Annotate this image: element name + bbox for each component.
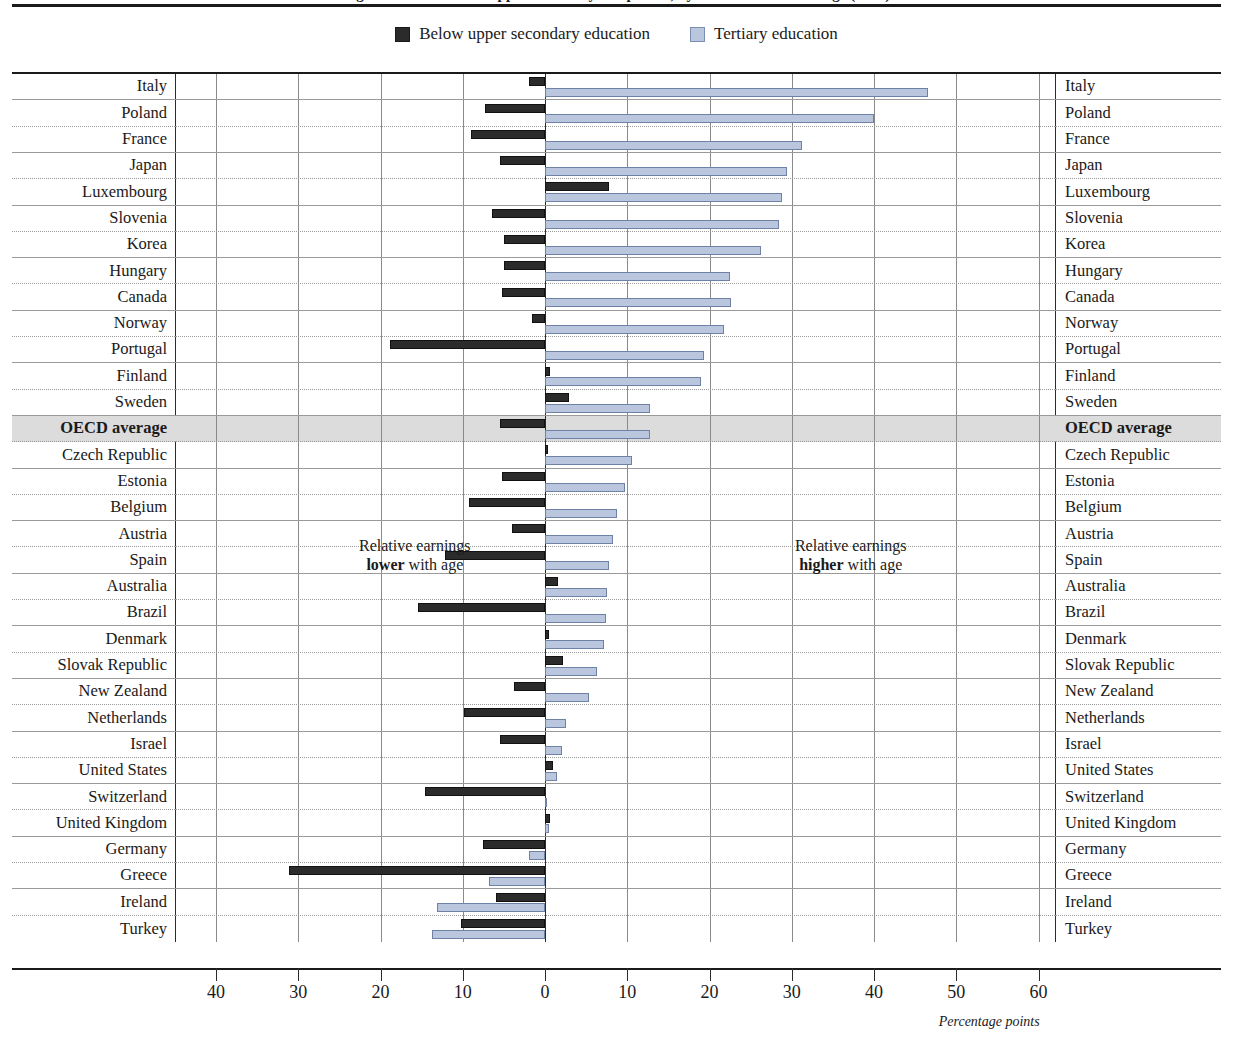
category-label-left-canada: Canada — [118, 284, 167, 309]
category-label-left-oecd-average: OECD average — [60, 416, 167, 441]
bar-below-upper-secondary-slovenia — [492, 209, 545, 218]
category-label-left-ireland: Ireland — [120, 889, 167, 914]
annotation-left-line1: Relative earnings — [359, 537, 471, 554]
annotation-left-rest: with age — [405, 556, 464, 573]
bar-below-upper-secondary-switzerland — [425, 787, 545, 796]
axis-tick-30-7 — [792, 968, 793, 981]
right-category-labels: ItalyPolandFranceJapanLuxembourgSlovenia… — [1055, 74, 1221, 942]
axis-tick-label-4: 0 — [541, 982, 550, 1003]
plot-region — [175, 74, 1055, 942]
annotation-left-bold: lower — [366, 556, 404, 573]
category-label-left-luxembourg: Luxembourg — [82, 179, 167, 204]
bar-tertiary-netherlands — [545, 719, 566, 728]
row-right-japan: Japan — [1055, 153, 1221, 179]
row-left-united-states: United States — [12, 758, 175, 784]
bar-below-upper-secondary-united-states — [545, 761, 553, 770]
category-label-left-france: France — [122, 127, 167, 152]
row-right-spain: Spain — [1055, 547, 1221, 573]
gridline-40 — [874, 74, 875, 942]
bar-below-upper-secondary-greece — [289, 866, 545, 875]
bar-tertiary-austria — [545, 535, 613, 544]
row-left-slovenia: Slovenia — [12, 206, 175, 232]
row-left-belgium: Belgium — [12, 495, 175, 521]
row-right-greece: Greece — [1055, 863, 1221, 889]
category-label-left-united-kingdom: United Kingdom — [56, 810, 167, 835]
gridline-30 — [792, 74, 793, 942]
bar-below-upper-secondary-belgium — [469, 498, 545, 507]
category-label-right-poland: Poland — [1065, 100, 1111, 125]
category-label-left-italy: Italy — [137, 74, 167, 99]
bar-tertiary-hungary — [545, 272, 730, 281]
row-left-norway: Norway — [12, 311, 175, 337]
category-label-right-switzerland: Switzerland — [1065, 784, 1144, 809]
bar-tertiary-sweden — [545, 404, 650, 413]
bar-tertiary-brazil — [545, 614, 606, 623]
row-divider — [175, 916, 1055, 942]
bar-below-upper-secondary-luxembourg — [545, 182, 609, 191]
category-label-left-new-zealand: New Zealand — [79, 679, 167, 704]
row-right-ireland: Ireland — [1055, 889, 1221, 915]
category-label-right-japan: Japan — [1065, 153, 1103, 178]
gridline--30 — [298, 74, 299, 942]
category-label-right-portugal: Portugal — [1065, 337, 1121, 362]
row-left-finland: Finland — [12, 363, 175, 389]
bar-tertiary-czech-republic — [545, 456, 632, 465]
axis-tick-30-1 — [298, 968, 299, 981]
bar-below-upper-secondary-australia — [545, 577, 558, 586]
category-label-right-hungary: Hungary — [1065, 258, 1123, 283]
annotation-higher-with-age: Relative earnings higher with age — [751, 537, 951, 575]
category-label-left-turkey: Turkey — [120, 916, 167, 942]
category-label-right-spain: Spain — [1065, 547, 1103, 572]
title-rule — [12, 4, 1221, 7]
row-divider — [175, 732, 1055, 758]
category-label-right-estonia: Estonia — [1065, 469, 1115, 494]
category-label-left-greece: Greece — [120, 863, 167, 888]
category-label-left-finland: Finland — [117, 363, 167, 388]
annotation-right-line1: Relative earnings — [795, 537, 907, 554]
row-right-oecd-average: OECD average — [1055, 416, 1221, 442]
category-label-left-israel: Israel — [130, 732, 167, 757]
category-label-right-finland: Finland — [1065, 363, 1115, 388]
bar-tertiary-turkey — [432, 930, 545, 939]
blue-square-icon — [690, 27, 705, 42]
row-left-united-kingdom: United Kingdom — [12, 810, 175, 836]
category-label-left-netherlands: Netherlands — [87, 705, 167, 730]
category-label-right-belgium: Belgium — [1065, 495, 1122, 520]
category-label-left-poland: Poland — [121, 100, 167, 125]
row-right-hungary: Hungary — [1055, 258, 1221, 284]
category-label-left-hungary: Hungary — [109, 258, 167, 283]
row-left-italy: Italy — [12, 74, 175, 100]
bar-tertiary-australia — [545, 588, 607, 597]
row-left-poland: Poland — [12, 100, 175, 126]
row-right-germany: Germany — [1055, 837, 1221, 863]
category-label-right-sweden: Sweden — [1065, 390, 1117, 415]
legend-item-tertiary: Tertiary education — [690, 24, 838, 44]
category-label-left-slovak-republic: Slovak Republic — [57, 653, 167, 678]
row-left-france: France — [12, 127, 175, 153]
bar-tertiary-switzerland — [545, 798, 547, 807]
row-divider — [175, 784, 1055, 810]
category-label-left-spain: Spain — [129, 547, 167, 572]
category-label-right-israel: Israel — [1065, 732, 1102, 757]
category-label-left-belgium: Belgium — [110, 495, 167, 520]
axis-tick-20-2 — [381, 968, 382, 981]
category-label-right-ireland: Ireland — [1065, 889, 1112, 914]
legend-label-below-upper-secondary: Below upper secondary education — [419, 24, 650, 44]
bar-below-upper-secondary-new-zealand — [514, 682, 545, 691]
row-left-sweden: Sweden — [12, 390, 175, 416]
bar-tertiary-italy — [545, 88, 928, 97]
category-label-left-japan: Japan — [129, 153, 167, 178]
row-left-austria: Austria — [12, 521, 175, 547]
row-divider — [175, 626, 1055, 652]
category-label-right-austria: Austria — [1065, 521, 1114, 546]
gridline-50 — [956, 74, 957, 942]
legend-item-below-upper-secondary: Below upper secondary education — [395, 24, 650, 44]
category-label-right-norway: Norway — [1065, 311, 1118, 336]
bar-tertiary-belgium — [545, 509, 617, 518]
bar-below-upper-secondary-turkey — [461, 919, 545, 928]
bar-below-upper-secondary-canada — [502, 288, 546, 297]
row-left-luxembourg: Luxembourg — [12, 179, 175, 205]
row-right-denmark: Denmark — [1055, 626, 1221, 652]
annotation-right-bold: higher — [799, 556, 843, 573]
axis-tick-40-8 — [874, 968, 875, 981]
